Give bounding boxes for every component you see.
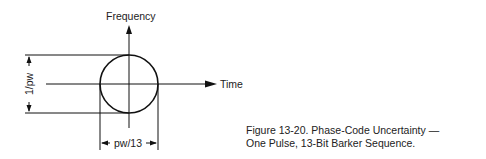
figure-caption: Figure 13-20. Phase-Code Uncertainty — O…: [246, 124, 439, 150]
height-dimension-label: 1/pw: [23, 72, 35, 95]
frequency-arrow-icon: [126, 25, 132, 34]
frequency-axis-label: Frequency: [106, 10, 156, 22]
caption-line-2: One Pulse, 13-Bit Barker Sequence.: [246, 137, 439, 150]
width-dimension-label: pw/13: [114, 137, 142, 149]
time-axis-label: Time: [220, 78, 243, 90]
time-arrow-icon: [205, 81, 217, 88]
caption-line-1: Figure 13-20. Phase-Code Uncertainty —: [246, 124, 439, 137]
